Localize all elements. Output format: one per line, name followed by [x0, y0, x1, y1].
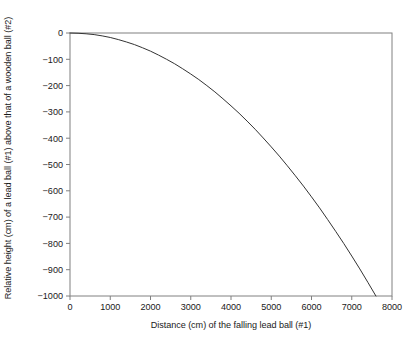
x-tick-label: 1000 — [100, 302, 120, 312]
plot-area: 010002000300040005000600070008000 0−100−… — [0, 0, 412, 344]
y-tick-label: 0 — [58, 28, 63, 38]
y-tick-label: −600 — [43, 186, 63, 196]
chart-figure: Relative height (cm) of a lead ball (#1)… — [0, 0, 412, 344]
y-tick-label: −800 — [43, 239, 63, 249]
y-tick-label: −700 — [43, 212, 63, 222]
y-tick-label: −900 — [43, 265, 63, 275]
x-tick-label: 3000 — [181, 302, 201, 312]
x-tick-label: 4000 — [221, 302, 241, 312]
y-tick-label: −200 — [43, 81, 63, 91]
y-tick-label: −1000 — [37, 291, 63, 301]
y-tick-label: −400 — [43, 134, 63, 144]
x-tick-label: 2000 — [140, 302, 160, 312]
x-axis-ticks — [70, 296, 392, 300]
x-tick-label: 7000 — [342, 302, 362, 312]
x-tick-label: 8000 — [382, 302, 402, 312]
y-axis-ticks — [66, 33, 70, 296]
plot-background — [70, 33, 392, 296]
x-tick-label: 6000 — [301, 302, 321, 312]
y-tick-label: −100 — [43, 55, 63, 65]
x-tick-label: 0 — [67, 302, 72, 312]
y-axis-tick-labels: 0−100−200−300−400−500−600−700−800−900−10… — [37, 28, 63, 301]
y-tick-label: −500 — [43, 160, 63, 170]
x-axis-tick-labels: 010002000300040005000600070008000 — [67, 302, 402, 312]
y-tick-label: −300 — [43, 107, 63, 117]
x-tick-label: 5000 — [261, 302, 281, 312]
